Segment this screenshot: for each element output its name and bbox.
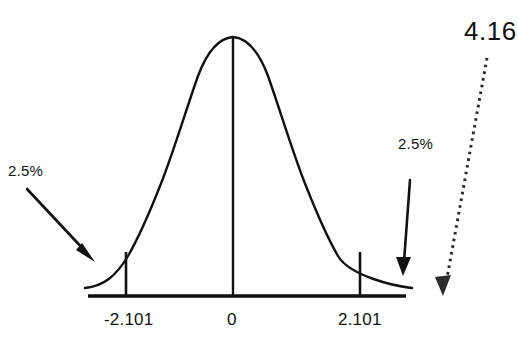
x-tick-label-right: 2.101: [338, 311, 382, 328]
statistic-dotted-arrow: [435, 58, 487, 296]
left-percent-arrow: [27, 189, 95, 262]
test-statistic-label: 4.16: [464, 18, 517, 44]
right-tail-percent-label: 2.5%: [398, 136, 433, 151]
x-tick-label-center: 0: [227, 311, 237, 328]
right-percent-arrow: [396, 180, 411, 276]
x-tick-label-left: -2.101: [104, 311, 153, 328]
curve-canvas: [0, 0, 518, 349]
bell-curve-path: [85, 37, 412, 288]
distribution-figure: -2.101 0 2.101 2.5% 2.5% 4.16: [0, 0, 518, 349]
left-tail-percent-label: 2.5%: [8, 163, 43, 178]
